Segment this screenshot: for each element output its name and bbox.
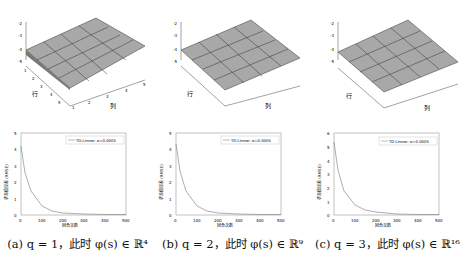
svg-text:行: 行 bbox=[187, 90, 193, 98]
svg-text:TD-Linear: α=0.0005: TD-Linear: α=0.0005 bbox=[388, 139, 429, 144]
line-chart-c: TD-Linear: α=0.0005 0123456 010020030040… bbox=[310, 128, 465, 228]
svg-text:100: 100 bbox=[351, 218, 359, 223]
svg-text:-5: -5 bbox=[173, 59, 177, 64]
svg-text:3: 3 bbox=[169, 164, 172, 169]
svg-text:500: 500 bbox=[435, 218, 443, 223]
svg-text:4: 4 bbox=[125, 88, 128, 93]
svg-text:300: 300 bbox=[235, 218, 243, 223]
svg-text:3: 3 bbox=[327, 172, 330, 177]
caption-a: (a) q = 1，此时 φ(s) ∈ ℝ⁴ bbox=[0, 235, 155, 251]
svg-text:-2: -2 bbox=[330, 21, 334, 26]
svg-text:5: 5 bbox=[169, 131, 172, 136]
svg-text:状态值误差 (RMSE): 状态值误差 (RMSE) bbox=[3, 164, 9, 200]
svg-text:500: 500 bbox=[277, 218, 285, 223]
svg-text:列: 列 bbox=[424, 104, 430, 112]
svg-text:行: 行 bbox=[32, 90, 38, 98]
svg-text:-3: -3 bbox=[330, 33, 334, 38]
svg-text:TD-Linear: α=0.0005: TD-Linear: α=0.0005 bbox=[75, 138, 116, 143]
svg-text:4: 4 bbox=[50, 92, 53, 97]
svg-text:6: 6 bbox=[327, 131, 330, 136]
svg-text:-4: -4 bbox=[173, 47, 177, 52]
svg-text:状态值误差 (RMSE): 状态值误差 (RMSE) bbox=[316, 164, 322, 200]
svg-text:0: 0 bbox=[19, 218, 22, 223]
svg-text:-4: -4 bbox=[330, 47, 334, 52]
svg-text:1: 1 bbox=[327, 200, 330, 205]
svg-text:-5: -5 bbox=[18, 59, 22, 64]
svg-text:回合次数: 回合次数 bbox=[375, 222, 391, 228]
svg-text:4: 4 bbox=[327, 159, 330, 164]
svg-text:2: 2 bbox=[169, 180, 172, 185]
svg-text:状态值误差 (RMSE): 状态值误差 (RMSE) bbox=[158, 164, 164, 200]
svg-text:300: 300 bbox=[393, 218, 401, 223]
svg-text:400: 400 bbox=[256, 218, 264, 223]
line-chart-a: TD-Linear: α=0.0005 012345 0100200300400… bbox=[0, 128, 155, 228]
svg-text:5: 5 bbox=[14, 131, 17, 136]
svg-text:回合次数: 回合次数 bbox=[217, 222, 233, 228]
panel-a: -2-3-4-5 12345 12345 行列 TD-Linear: α=0.0… bbox=[0, 0, 155, 266]
svg-text:TD-Linear: α=0.0005: TD-Linear: α=0.0005 bbox=[230, 138, 271, 143]
svg-text:0: 0 bbox=[327, 213, 330, 218]
svg-text:300: 300 bbox=[80, 218, 88, 223]
svg-text:列: 列 bbox=[265, 102, 271, 110]
svg-text:4: 4 bbox=[169, 147, 172, 152]
surface-plot-c: -2-3-4-5 行列 bbox=[310, 0, 465, 120]
svg-text:列: 列 bbox=[110, 102, 116, 110]
svg-text:400: 400 bbox=[101, 218, 109, 223]
svg-text:3: 3 bbox=[106, 94, 109, 99]
svg-text:5: 5 bbox=[327, 145, 330, 150]
panel-c: -2-3-4-5 行列 TD-Linear: α=0.0005 0123456 … bbox=[310, 0, 465, 266]
svg-text:-3: -3 bbox=[173, 33, 177, 38]
svg-text:1: 1 bbox=[14, 197, 17, 202]
caption-c: (c) q = 3，此时 φ(s) ∈ ℝ¹⁶ bbox=[310, 235, 465, 251]
svg-text:3: 3 bbox=[40, 84, 43, 89]
svg-text:-4: -4 bbox=[18, 47, 22, 52]
svg-text:2: 2 bbox=[14, 180, 17, 185]
svg-text:行: 行 bbox=[346, 92, 352, 100]
svg-text:0: 0 bbox=[174, 218, 177, 223]
svg-text:100: 100 bbox=[193, 218, 201, 223]
svg-text:1: 1 bbox=[169, 197, 172, 202]
svg-text:0: 0 bbox=[332, 218, 335, 223]
svg-text:2: 2 bbox=[327, 186, 330, 191]
svg-text:-3: -3 bbox=[18, 33, 22, 38]
svg-text:0: 0 bbox=[14, 213, 17, 218]
svg-text:2: 2 bbox=[32, 76, 35, 81]
svg-text:100: 100 bbox=[38, 218, 46, 223]
panel-b: -2-3-4-5 行列 TD-Linear: α=0.0005 012345 0… bbox=[155, 0, 310, 266]
svg-text:2: 2 bbox=[88, 100, 91, 105]
svg-text:回合次数: 回合次数 bbox=[62, 222, 78, 228]
svg-text:-2: -2 bbox=[173, 21, 177, 26]
svg-text:500: 500 bbox=[122, 218, 130, 223]
svg-text:1: 1 bbox=[72, 105, 75, 110]
svg-text:5: 5 bbox=[58, 100, 61, 105]
svg-text:400: 400 bbox=[414, 218, 422, 223]
svg-text:3: 3 bbox=[14, 164, 17, 169]
caption-b: (b) q = 2，此时 φ(s) ∈ ℝ⁹ bbox=[155, 235, 310, 251]
line-chart-b: TD-Linear: α=0.0005 012345 0100200300400… bbox=[155, 128, 310, 228]
svg-text:4: 4 bbox=[14, 147, 17, 152]
svg-text:0: 0 bbox=[169, 213, 172, 218]
surface-plot-b: -2-3-4-5 行列 bbox=[155, 0, 310, 120]
svg-text:5: 5 bbox=[143, 82, 146, 87]
svg-text:-5: -5 bbox=[330, 59, 334, 64]
svg-text:-2: -2 bbox=[18, 21, 22, 26]
surface-plot-a: -2-3-4-5 12345 12345 行列 bbox=[0, 0, 155, 120]
svg-text:1: 1 bbox=[24, 68, 27, 73]
